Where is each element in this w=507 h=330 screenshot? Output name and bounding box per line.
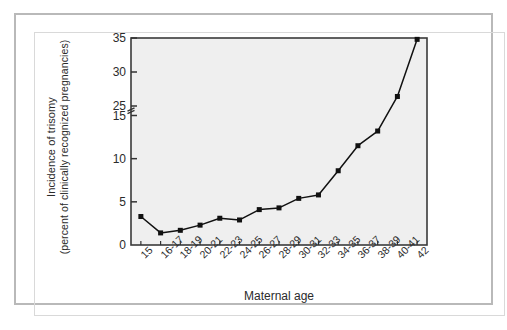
figure-root: Incidence of trisomy (percent of clinica…	[0, 0, 507, 330]
x-axis-title: Maternal age	[131, 289, 427, 303]
chart-canvas: Incidence of trisomy (percent of clinica…	[0, 0, 507, 330]
x-axis-tick-labels: 1516-1718-1920-2122-2324-2526-2728-2930-…	[0, 0, 507, 330]
x-axis-tick-label: 15	[138, 244, 155, 261]
